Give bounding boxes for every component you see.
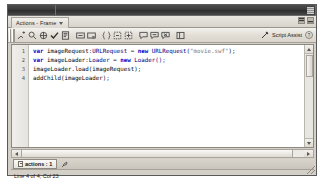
script-assist-button[interactable]: Script Assist ? bbox=[260, 31, 316, 40]
apply-block-comment-icon[interactable] bbox=[138, 29, 149, 42]
collapse-between-braces-icon[interactable] bbox=[101, 29, 112, 42]
help-icon[interactable]: ? bbox=[305, 31, 313, 39]
code-token: imageLoader.load(imageRequest); bbox=[33, 66, 141, 72]
code-editor[interactable]: 1 2 3 4 var imageRequest:URLRequest = ne… bbox=[11, 44, 314, 148]
code-token: Loader bbox=[89, 57, 110, 63]
scroll-up-arrow-icon[interactable] bbox=[305, 45, 313, 54]
code-token: imageRequest: bbox=[47, 48, 92, 54]
tab-actions-frame[interactable]: Actions - Frame bbox=[11, 17, 69, 28]
panel-tab-strip: Actions - Frame bbox=[8, 16, 316, 28]
code-line: imageLoader.load(imageRequest); bbox=[33, 65, 313, 74]
code-token: imageLoader: bbox=[47, 57, 89, 63]
actions-toolbar: Script Assist ? bbox=[8, 28, 316, 43]
line-number-gutter: 1 2 3 4 bbox=[12, 45, 29, 147]
code-token: new bbox=[138, 48, 152, 54]
expand-all-icon[interactable] bbox=[123, 29, 134, 42]
show-hide-toolbox-icon[interactable] bbox=[175, 29, 186, 42]
code-token: "movie.swf" bbox=[190, 48, 228, 54]
line-number: 2 bbox=[12, 56, 28, 65]
cursor-position-label: Line 4 of 4, Col 23 bbox=[14, 173, 59, 179]
scroll-left-arrow-icon[interactable] bbox=[12, 150, 21, 157]
line-number: 4 bbox=[12, 74, 28, 83]
collapse-selection-icon[interactable] bbox=[112, 29, 123, 42]
window-title-bar[interactable] bbox=[8, 5, 316, 16]
find-icon[interactable] bbox=[27, 29, 38, 42]
code-line: var imageRequest:URLRequest = new URLReq… bbox=[33, 47, 313, 56]
code-line: var imageLoader:Loader = new Loader(); bbox=[33, 56, 313, 65]
code-token: Loader(); bbox=[134, 57, 165, 63]
panel-tab-label: Actions - Frame bbox=[16, 20, 56, 26]
pin-script-icon[interactable] bbox=[60, 160, 68, 168]
toolbar-grip[interactable] bbox=[9, 29, 15, 42]
script-page-icon bbox=[18, 161, 23, 167]
title-bar-segment-left bbox=[8, 5, 56, 15]
script-tab-actions[interactable]: actions : 1 bbox=[13, 159, 57, 169]
apply-line-comment-icon[interactable] bbox=[149, 29, 160, 42]
resize-grip-icon[interactable] bbox=[307, 166, 315, 174]
insert-target-path-icon[interactable] bbox=[38, 29, 49, 42]
code-token: var bbox=[33, 57, 47, 63]
code-line: addChild(imageLoader); bbox=[33, 74, 313, 83]
remove-comment-icon[interactable] bbox=[160, 29, 171, 42]
scroll-right-arrow-icon[interactable] bbox=[304, 150, 313, 157]
auto-format-icon[interactable] bbox=[60, 29, 71, 42]
editor-horizontal-scrollbar[interactable] bbox=[11, 149, 314, 158]
code-token: ); bbox=[228, 48, 235, 54]
horizontal-scroll-thumb[interactable] bbox=[21, 150, 293, 157]
panel-collapse-button[interactable] bbox=[307, 17, 314, 24]
script-tab-label: actions : 1 bbox=[25, 161, 52, 167]
editor-status-bar: Line 4 of 4, Col 23 bbox=[11, 171, 314, 180]
vertical-scroll-thumb[interactable] bbox=[306, 55, 313, 77]
scroll-down-arrow-icon[interactable] bbox=[305, 138, 313, 147]
code-text-area[interactable]: var imageRequest:URLRequest = new URLReq… bbox=[29, 45, 313, 147]
code-token: var bbox=[33, 48, 47, 54]
title-bar-segment-right bbox=[56, 5, 316, 15]
horizontal-scroll-track[interactable] bbox=[21, 150, 304, 157]
check-syntax-icon[interactable] bbox=[49, 29, 60, 42]
code-token: URLRequest( bbox=[152, 48, 190, 54]
line-number: 3 bbox=[12, 65, 28, 74]
toolbar-buttons bbox=[16, 29, 186, 42]
code-token: new bbox=[120, 57, 134, 63]
code-token: URLRequest bbox=[92, 48, 127, 54]
add-statement-icon[interactable] bbox=[16, 29, 27, 42]
code-token: addChild(imageLoader); bbox=[33, 75, 110, 81]
code-token: = bbox=[110, 57, 120, 63]
panel-controls bbox=[298, 17, 314, 24]
script-assist-wand-icon bbox=[260, 31, 269, 40]
code-token: = bbox=[127, 48, 137, 54]
actions-panel-window: Actions - Frame bbox=[7, 4, 317, 176]
script-tab-bar: actions : 1 bbox=[11, 159, 314, 170]
debug-options-icon[interactable] bbox=[86, 29, 97, 42]
show-code-hint-icon[interactable] bbox=[75, 29, 86, 42]
editor-vertical-scrollbar[interactable] bbox=[304, 45, 313, 147]
panel-menu-button[interactable] bbox=[298, 17, 305, 24]
screenshot-root: Actions - Frame bbox=[0, 0, 331, 185]
window-grip-icon[interactable] bbox=[307, 7, 314, 14]
line-number: 1 bbox=[12, 47, 28, 56]
chevron-down-icon[interactable] bbox=[59, 22, 63, 25]
script-assist-label: Script Assist bbox=[272, 32, 302, 38]
